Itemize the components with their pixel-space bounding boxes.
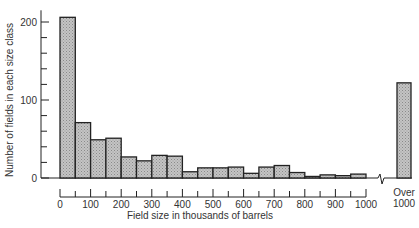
bars [41, 17, 412, 184]
y-axis: 0100200 [20, 10, 49, 184]
overflow-category-label: Over [393, 187, 415, 198]
histogram-bar [305, 176, 320, 178]
x-axis: 01002003004005006007008009001000Over1000 [57, 187, 415, 210]
histogram-bar [335, 176, 350, 178]
x-tick-label: 0 [57, 199, 63, 210]
y-tick-label: 200 [20, 17, 37, 28]
x-tick-label: 400 [174, 199, 191, 210]
histogram-bar [106, 138, 121, 178]
histogram-bar [397, 83, 411, 178]
x-axis-label: Field size in thousands of barrels [127, 210, 273, 221]
histogram-bar [274, 166, 289, 178]
histogram-bar [198, 168, 213, 178]
histogram-bar [320, 175, 335, 178]
x-tick-label: 700 [266, 199, 283, 210]
y-axis-label: Number of fields in each size class [4, 23, 15, 177]
y-tick-label: 100 [20, 95, 37, 106]
x-tick-label: 800 [296, 199, 313, 210]
histogram-bar [91, 140, 106, 178]
histogram-bar [213, 168, 228, 178]
histogram-bar [351, 174, 366, 178]
x-tick-label: 900 [327, 199, 344, 210]
y-tick-label: 0 [31, 173, 37, 184]
histogram-chart: 0100200 01002003004005006007008009001000… [0, 0, 419, 228]
histogram-bar [182, 172, 197, 178]
histogram-bar [60, 17, 75, 178]
histogram-bar [228, 167, 243, 178]
x-tick-label: 1000 [355, 199, 378, 210]
histogram-bar [167, 156, 182, 178]
histogram-bar [244, 173, 259, 178]
x-tick-label: 500 [205, 199, 222, 210]
histogram-bar [121, 157, 136, 178]
histogram-bar [290, 173, 305, 178]
overflow-category-label: 1000 [393, 198, 416, 209]
histogram-bar [137, 161, 152, 178]
histogram-bar [75, 123, 90, 178]
histogram-bar [259, 167, 274, 178]
x-tick-label: 600 [235, 199, 252, 210]
x-tick-label: 300 [143, 199, 160, 210]
x-tick-label: 200 [113, 199, 130, 210]
histogram-bar [152, 155, 167, 178]
x-tick-label: 100 [82, 199, 99, 210]
